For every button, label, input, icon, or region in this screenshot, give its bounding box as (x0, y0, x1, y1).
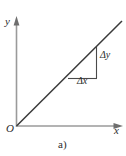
origin-label: O (6, 123, 14, 134)
figure-container: y x O Δy Δx a) (0, 0, 126, 156)
figure-caption: a) (58, 139, 67, 150)
y-axis-arrowhead-icon (14, 16, 20, 26)
y-axis-label: y (5, 16, 10, 27)
x-axis-label: x (114, 125, 119, 136)
data-line (17, 21, 123, 126)
delta-y-label: Δy (100, 50, 110, 60)
delta-x-label: Δx (77, 76, 87, 86)
line-graph-svg (0, 0, 126, 156)
